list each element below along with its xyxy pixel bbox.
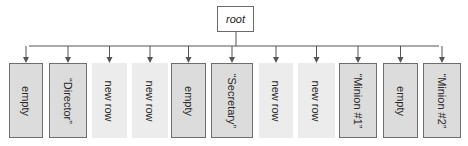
child-node-label: “Minion #2” — [436, 73, 448, 128]
child-node: empty — [9, 63, 43, 138]
child-node: empty — [383, 63, 418, 138]
child-node: empty — [171, 63, 206, 138]
child-node-label: new row — [311, 80, 323, 121]
child-node: “Secretary” — [211, 63, 253, 138]
child-node: “Director” — [49, 63, 87, 138]
child-node-label: new row — [104, 80, 116, 121]
child-node-placeholder: new row — [132, 63, 168, 138]
child-node-placeholder: new row — [92, 63, 127, 138]
child-node-label: “Secretary” — [226, 73, 238, 127]
child-node: “Minion #1” — [339, 63, 377, 138]
child-node-placeholder: new row — [259, 63, 293, 138]
child-node-label: empty — [20, 86, 32, 116]
child-node-label: empty — [183, 86, 195, 116]
child-node-label: new row — [270, 80, 282, 121]
child-node: “Minion #2” — [423, 63, 461, 138]
root-label: root — [226, 13, 245, 25]
child-node-label: “Minion #1” — [352, 73, 364, 128]
tree-diagram: root empty“Director”new rownew rowempty“… — [0, 0, 468, 146]
child-node-label: “Director” — [62, 78, 74, 124]
child-node-label: new row — [144, 80, 156, 121]
child-node-placeholder: new row — [298, 63, 335, 138]
child-node-label: empty — [395, 86, 407, 116]
root-node: root — [217, 6, 254, 32]
